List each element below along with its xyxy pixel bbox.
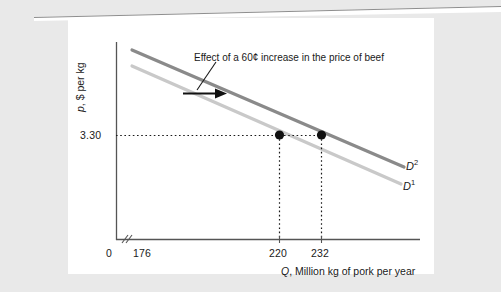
marker-point-220	[275, 130, 284, 139]
x-tick-label-220: 220	[269, 247, 287, 259]
curve-label-d1-base: D	[403, 180, 411, 192]
curve-label-d1-superscript: 1	[411, 178, 415, 187]
marker-point-232	[317, 130, 326, 139]
y-axis-title-units: , $ per kg	[74, 62, 86, 106]
x-tick-label-0: 0	[106, 247, 112, 259]
x-tick-label-176: 176	[133, 247, 151, 259]
figure-page: p, $ per kg 3.30 0 176 220 232 Q, Millio…	[0, 0, 501, 292]
x-axis-title-units: , Million kg of pork per year	[289, 265, 415, 277]
demand-curve-d2	[132, 50, 404, 167]
y-axis-title: p, $ per kg	[74, 98, 144, 112]
x-axis-title-variable: Q	[281, 265, 289, 277]
chart-axes	[116, 42, 420, 243]
demand-shift-chart	[0, 0, 501, 292]
demand-curve-d1	[132, 66, 401, 184]
y-axis-title-variable: p	[74, 106, 86, 112]
x-tick-label-232: 232	[311, 247, 329, 259]
curve-label-d2: D2	[406, 158, 418, 172]
curve-label-d2-superscript: 2	[414, 158, 418, 167]
x-axis-title: Q, Million kg of pork per year	[281, 265, 415, 277]
curve-label-d2-base: D	[406, 160, 414, 172]
y-tick-label-330: 3.30	[80, 129, 101, 141]
curve-label-d1: D1	[403, 178, 415, 192]
shift-annotation-text: Effect of a 60¢ increase in the price of…	[194, 52, 384, 63]
